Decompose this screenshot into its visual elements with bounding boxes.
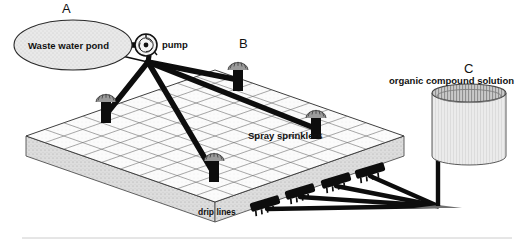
irrigation-schematic-figure: A B C Waste water pond pump Spray sprink… <box>0 0 520 244</box>
spray-sprinklers-label: Spray sprinklers <box>248 131 322 141</box>
sprinkler-head-1 <box>96 94 116 102</box>
tank-rim <box>432 84 506 102</box>
pond-label: Waste water pond <box>28 41 109 51</box>
organic-compound-tank <box>432 84 506 165</box>
pump-icon <box>135 34 157 56</box>
callout-label-c: C <box>464 62 473 75</box>
pump-label: pump <box>162 40 188 50</box>
callout-label-b: B <box>239 37 248 50</box>
drip-lines-label: drip lines <box>198 208 236 217</box>
schematic-canvas <box>0 0 520 244</box>
tank-body <box>432 93 506 165</box>
tank-label: organic compound solution <box>389 76 514 86</box>
callout-label-a: A <box>62 2 71 15</box>
sprinkler-head-2 <box>228 62 248 70</box>
